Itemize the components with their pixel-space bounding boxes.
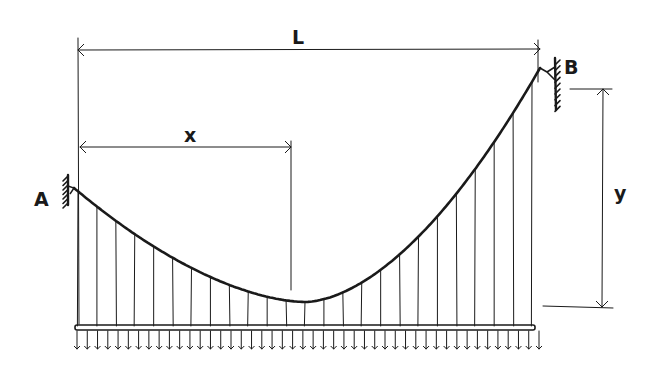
support-label-B: B <box>564 58 578 77</box>
fixed-supports <box>63 58 560 208</box>
hanger-rod <box>418 237 419 326</box>
support-b-wall <box>555 58 556 110</box>
hanger-rod <box>248 292 249 326</box>
distance-label-x: x <box>184 126 196 145</box>
height-label-y: y <box>614 184 626 203</box>
hanger-rod <box>513 113 514 326</box>
support-b-bracket <box>540 67 555 80</box>
hanger-rod <box>173 258 174 326</box>
hanger-rods <box>77 82 532 326</box>
span-label-L: L <box>292 28 304 47</box>
suspension-cable-diagram: L x y A B <box>0 0 652 375</box>
hanger-rod <box>229 285 230 326</box>
distributed-load-arrows <box>74 331 542 349</box>
hanger-rod <box>531 82 532 326</box>
hanger-rod <box>77 191 78 326</box>
hanger-rod <box>304 302 305 326</box>
extension-line-left <box>78 38 79 324</box>
hanger-rod <box>456 194 457 326</box>
hanger-rod <box>343 292 344 326</box>
diagram-drawing <box>0 0 652 375</box>
hanger-rod <box>361 283 362 326</box>
hanger-rod <box>475 169 476 326</box>
hanger-rod <box>134 234 135 326</box>
hanger-rod <box>191 268 192 326</box>
hanger-rod <box>286 300 287 326</box>
cable-path <box>74 68 540 302</box>
cable-curve <box>74 68 540 302</box>
hanger-rod <box>116 221 117 326</box>
hanger-rod <box>400 254 401 326</box>
deck-beam-outline <box>75 325 535 330</box>
deck-beam <box>75 325 535 330</box>
span-dimension-line <box>78 49 540 50</box>
support-label-A: A <box>34 190 49 209</box>
y-dimension-line <box>602 89 603 307</box>
